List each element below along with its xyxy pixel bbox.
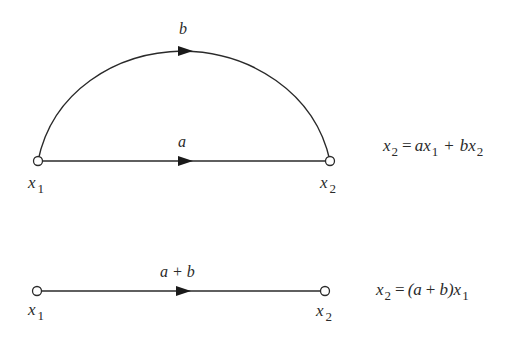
top-graph: b a x1 x2 x2=ax1+bx2 <box>27 20 483 196</box>
node-x1 <box>34 157 43 166</box>
equation-top: x2=ax1+bx2 <box>382 136 483 159</box>
bottom-graph: a + b x1 x2 x2=(a+b)x1 <box>27 263 469 324</box>
node-label-x2: x2 <box>315 301 332 324</box>
equation-bottom: x2=(a+b)x1 <box>375 280 469 303</box>
node-label-x2: x2 <box>319 173 336 196</box>
node-label-x1: x1 <box>27 300 44 323</box>
node-x2 <box>326 157 335 166</box>
arrowhead-icon <box>178 156 193 166</box>
edge-label-b: b <box>179 20 187 37</box>
node-x2 <box>321 287 330 296</box>
arrowhead-icon <box>178 46 193 56</box>
node-x1 <box>33 287 42 296</box>
edge-label-a: a <box>178 133 186 150</box>
arrowhead-icon <box>176 286 191 296</box>
edge-label-a-plus-b: a + b <box>160 263 195 280</box>
signal-flow-diagram: b a x1 x2 x2=ax1+bx2 a + b x1 x2 x2=(a+b… <box>0 0 531 339</box>
node-label-x1: x1 <box>27 173 44 196</box>
